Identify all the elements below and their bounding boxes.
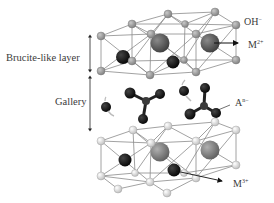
hydroxide-ion [211,118,219,126]
hydroxide-ion [232,21,240,29]
trivalent-metal-label: M3+ [233,178,248,189]
hydroxide-label: OH− [244,16,262,27]
hydroxide-ion [128,20,136,28]
hydroxide-ion [146,71,154,79]
hydroxide-ion [147,139,155,147]
interlayer-anion-label: An− [235,97,249,108]
hydroxide-ion [232,161,240,169]
hydroxide-ion [129,126,137,134]
hydroxide-ion [128,57,136,65]
divalent-metal-label-base: M [248,39,257,50]
hydroxide-ion [192,137,200,145]
gallery-label: Gallery [55,97,87,108]
interlayer-anion-label-charge: n− [242,97,248,103]
hydroxide-ion [232,126,240,134]
trivalent-metal-label-base: M [233,178,242,189]
trivalent-metal-label-charge: 3+ [242,178,248,184]
anion-pointer-arrow [218,105,230,110]
hydroxide-ion [132,170,139,177]
hydroxide-ion [181,57,188,64]
hydroxide-ion [192,68,200,76]
hydroxide-ion [146,178,154,186]
upper-layer-atoms [97,8,240,79]
hydroxide-ion [192,30,200,38]
interlayer-anion [125,88,166,125]
m3-ion [167,56,180,69]
hydroxide-ion [211,8,219,16]
gallery-contents [101,80,221,124]
hydroxide-ion [97,137,105,145]
hydroxide-ion [232,56,240,64]
m3-ion [168,164,181,177]
hydroxide-ion [97,67,105,75]
hydroxide-label-charge: − [258,16,261,22]
hydroxide-ion [97,32,105,40]
hydroxide-ion [163,189,171,197]
m3-ion [119,154,132,167]
hydroxide-label-base: OH [244,16,258,27]
interlayer-anion [185,83,222,120]
divalent-metal-label-charge: 2+ [257,39,263,45]
ldh-structure-diagram [0,0,274,203]
water-molecule [179,80,191,101]
hydroxide-ion [97,172,105,180]
water-molecule [101,97,114,116]
hydroxide-ion [182,21,189,28]
m2-ion [201,141,220,160]
divalent-metal-label: M2+ [248,39,263,50]
hydroxide-ion [164,122,172,130]
brucite-layer-label: Brucite-like layer [6,53,80,64]
hydroxide-ion [164,10,172,18]
hydroxide-ion [114,185,122,193]
hydroxide-ion [147,30,155,38]
lower-layer-atoms [97,105,240,197]
